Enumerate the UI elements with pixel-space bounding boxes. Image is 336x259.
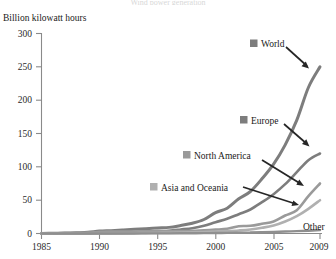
series-line-world <box>42 67 321 234</box>
legend-swatch-world <box>250 40 258 48</box>
chart-svg: Billion kilowatt hours 300 250 200 150 1… <box>0 0 336 259</box>
annotation-label-europe: Europe <box>251 116 278 126</box>
x-axis-ticks: 1985 1990 1995 2000 2005 2009 <box>32 234 329 253</box>
y-tick-100: 100 <box>18 162 33 172</box>
legend-swatch-asia-oceania <box>150 183 158 191</box>
y-tick-150: 150 <box>18 129 33 139</box>
y-tick-200: 200 <box>18 95 33 105</box>
y-tick-0: 0 <box>27 229 32 239</box>
x-tick-2000: 2000 <box>206 242 225 252</box>
y-tick-50: 50 <box>23 195 33 205</box>
annotation-label-north-america: North America <box>194 151 252 161</box>
x-tick-2009: 2009 <box>310 242 329 252</box>
x-tick-2005: 2005 <box>265 242 284 252</box>
x-tick-1985: 1985 <box>32 242 51 252</box>
annotation-label-asia-oceania: Asia and Oceania <box>161 183 229 193</box>
arrow-head-asia-oceania <box>292 200 300 206</box>
y-axis-title: Billion kilowatt hours <box>3 13 87 23</box>
arrow-world <box>286 47 307 66</box>
series-layer <box>42 67 321 234</box>
annotation-arrows <box>243 47 310 206</box>
annotation-label-other: Other <box>303 222 325 232</box>
annotation-labels: World Europe North America Asia and Ocea… <box>150 39 325 232</box>
series-line-europe <box>42 154 321 234</box>
legend-swatch-europe <box>240 116 248 124</box>
annotation-label-world: World <box>261 39 285 49</box>
arrow-asia-oceania <box>243 187 296 204</box>
y-tick-300: 300 <box>18 29 33 39</box>
y-tick-250: 250 <box>18 62 33 72</box>
legend-swatch-north-america <box>183 151 191 159</box>
x-tick-1995: 1995 <box>148 242 167 252</box>
x-tick-1990: 1990 <box>90 242 109 252</box>
y-axis-ticks: 300 250 200 150 100 50 0 <box>18 29 42 239</box>
wind-power-line-chart: Billion kilowatt hours 300 250 200 150 1… <box>0 0 336 259</box>
